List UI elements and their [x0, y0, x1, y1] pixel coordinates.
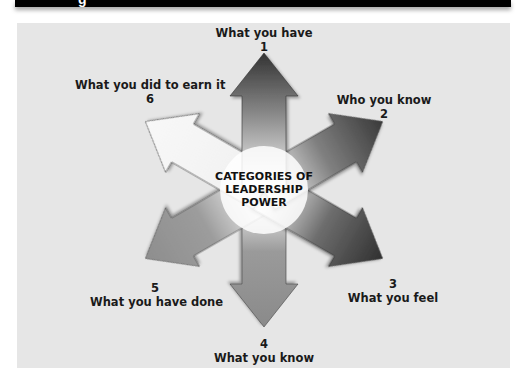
category-5-number: 5: [90, 281, 220, 295]
center-title-line-2: LEADERSHIP: [204, 183, 324, 196]
category-1-number: 1: [214, 40, 314, 54]
category-1-text: What you have: [214, 26, 314, 40]
category-2-text: Who you know: [334, 93, 434, 107]
center-title: CATEGORIES OF LEADERSHIP POWER: [204, 170, 324, 209]
category-label-1: What you have 1: [214, 26, 314, 54]
center-title-line-3: POWER: [204, 196, 324, 209]
category-6-number: 6: [75, 92, 225, 106]
center-title-line-1: CATEGORIES OF: [204, 170, 324, 183]
category-label-5: 5 What you have done: [90, 281, 220, 309]
category-label-3: 3 What you feel: [343, 277, 443, 305]
category-4-text: What you know: [209, 351, 319, 365]
category-6-text: What you did to earn it: [75, 78, 225, 92]
category-label-4: 4 What you know: [209, 337, 319, 365]
category-2-number: 2: [334, 107, 434, 121]
category-3-number: 3: [343, 277, 443, 291]
category-label-6: What you did to earn it 6: [75, 78, 225, 106]
category-3-text: What you feel: [343, 291, 443, 305]
category-label-2: Who you know 2: [334, 93, 434, 121]
category-4-number: 4: [209, 337, 319, 351]
category-5-text: What you have done: [90, 295, 220, 309]
